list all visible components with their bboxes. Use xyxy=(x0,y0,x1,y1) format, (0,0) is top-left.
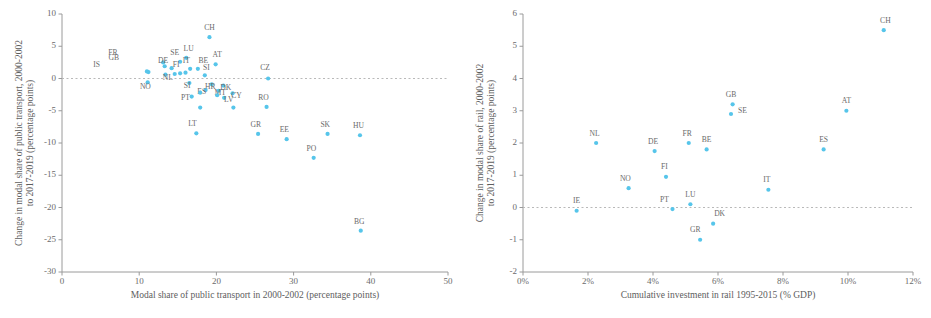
x-tick-label: 10% xyxy=(840,276,857,286)
data-point xyxy=(256,132,260,136)
data-point-label: SK xyxy=(320,120,330,129)
x-tick-label: 8% xyxy=(777,276,790,286)
y-tick-label: -20 xyxy=(44,202,56,212)
y-tick-label: 0 xyxy=(52,73,57,83)
scatter-svg-left: 1050-5-10-15-20-25-3001020304050Modal sh… xyxy=(0,0,465,318)
data-point xyxy=(627,186,631,190)
data-point xyxy=(203,73,207,77)
x-tick-label: 2% xyxy=(582,276,595,286)
data-point-label: IT xyxy=(763,175,771,184)
x-tick-label: 20 xyxy=(212,276,222,286)
data-point xyxy=(729,112,733,116)
scatter-svg-right: 6543210-1-20%2%4%6%8%10%12%Cumulative in… xyxy=(465,0,931,318)
y-tick-label: 5 xyxy=(513,40,518,50)
data-point-label: FI xyxy=(173,60,180,69)
data-point xyxy=(264,105,268,109)
data-point xyxy=(664,175,668,179)
y-tick-label: -10 xyxy=(44,137,56,147)
data-point-label: NL xyxy=(163,73,173,82)
data-point-label: SE xyxy=(738,106,747,115)
data-point xyxy=(198,91,202,95)
y-tick-label: 4 xyxy=(513,73,518,83)
data-point xyxy=(670,207,674,211)
x-tick-label: 40 xyxy=(366,276,376,286)
y-tick-label: -25 xyxy=(44,234,56,244)
data-point xyxy=(575,209,579,213)
y-axis-title-line: Change in modal share of public transpor… xyxy=(14,40,24,246)
y-tick-label: -5 xyxy=(49,105,57,115)
data-point-label: SE xyxy=(170,48,179,57)
data-point xyxy=(285,137,289,141)
y-tick-label: -2 xyxy=(510,266,518,276)
data-point xyxy=(183,71,187,75)
x-tick-label: 4% xyxy=(647,276,660,286)
data-point-label: LU xyxy=(685,190,696,199)
y-tick-label: -30 xyxy=(44,266,56,276)
data-point-label: LV xyxy=(224,95,234,104)
data-point xyxy=(215,93,219,97)
data-point-label: LT xyxy=(188,119,197,128)
data-point-label: DK xyxy=(714,209,725,218)
y-axis-title-line: Change in modal share of rail, 2000-2002 xyxy=(475,63,485,222)
data-point-group: CHFRLUSEGBATDEITBEISFICZSINONLSIHRDKESMT… xyxy=(93,23,365,233)
x-tick-label: 0% xyxy=(517,276,530,286)
data-point xyxy=(688,202,692,206)
data-point xyxy=(358,133,362,137)
data-point xyxy=(196,67,200,71)
chart-panel-right: 6543210-1-20%2%4%6%8%10%12%Cumulative in… xyxy=(465,0,931,318)
data-point xyxy=(731,102,735,106)
data-point-label: SI xyxy=(203,63,210,72)
data-point-label: GR xyxy=(250,120,261,129)
data-point-label: AT xyxy=(842,96,852,105)
data-point xyxy=(594,141,598,145)
scatter-plot-left: 1050-5-10-15-20-25-3001020304050Modal sh… xyxy=(0,0,465,318)
data-point xyxy=(653,149,657,153)
data-point-label: NO xyxy=(140,82,151,91)
data-point-label: PO xyxy=(306,144,316,153)
data-point xyxy=(687,141,691,145)
data-point xyxy=(711,222,715,226)
chart-panel-left: 1050-5-10-15-20-25-3001020304050Modal sh… xyxy=(0,0,465,318)
data-point-label: CH xyxy=(880,16,891,25)
y-tick-label: 10 xyxy=(47,8,57,18)
data-point xyxy=(231,105,235,109)
data-point-label: NO xyxy=(620,174,631,183)
data-point-label: PT xyxy=(660,195,669,204)
data-point xyxy=(325,132,329,136)
data-point-label: CH xyxy=(204,23,215,32)
data-point xyxy=(146,70,150,74)
data-point xyxy=(178,71,182,75)
x-axis-title: Modal share of public transport in 2000-… xyxy=(131,290,380,301)
y-axis-title-line: to 2017-2019 (percentage points) xyxy=(486,80,497,206)
data-point xyxy=(266,76,270,80)
data-point-label: GR xyxy=(690,225,701,234)
y-axis-title-line: to 2017-2019 (percentage points) xyxy=(25,80,36,206)
data-point-label: ES xyxy=(819,135,828,144)
data-point-label: LU xyxy=(184,44,195,53)
data-point xyxy=(163,64,167,68)
data-point-label: CZ xyxy=(260,63,270,72)
data-point xyxy=(844,109,848,113)
y-tick-label: 6 xyxy=(513,8,518,18)
data-point xyxy=(188,67,192,71)
data-point xyxy=(822,147,826,151)
y-tick-label: 1 xyxy=(513,169,518,179)
x-tick-label: 6% xyxy=(712,276,725,286)
data-point xyxy=(705,147,709,151)
data-point xyxy=(698,238,702,242)
data-point xyxy=(194,131,198,135)
data-point-label: SI xyxy=(184,81,191,90)
data-point-label: RO xyxy=(258,93,269,102)
y-tick-label: 2 xyxy=(513,137,518,147)
y-tick-label: 3 xyxy=(513,105,518,115)
x-axis-title: Cumulative investment in rail 1995-2015 … xyxy=(621,290,816,301)
data-point-label: BE xyxy=(702,135,712,144)
figure-container: 1050-5-10-15-20-25-3001020304050Modal sh… xyxy=(0,0,931,318)
data-point-label: GB xyxy=(108,53,119,62)
data-point-label: IS xyxy=(93,60,100,69)
y-axis-title: Change in modal share of rail, 2000-2002… xyxy=(475,63,497,222)
data-point xyxy=(312,156,316,160)
y-tick-label: -15 xyxy=(44,169,56,179)
y-axis-title: Change in modal share of public transpor… xyxy=(14,40,36,246)
data-point xyxy=(766,188,770,192)
